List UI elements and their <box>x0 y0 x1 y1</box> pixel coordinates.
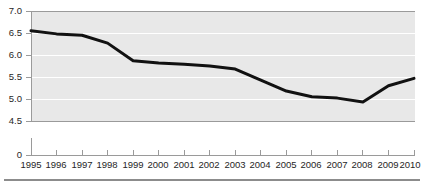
y-axis-label-5: 4.5 <box>9 115 22 126</box>
x-axis-label-3: 1998 <box>96 159 117 170</box>
x-axis-label-14: 2009 <box>377 159 398 170</box>
chart-canvas: 7.0 6.5 6.0 5.5 5.0 4.5 0 <box>0 0 424 192</box>
x-axis-label-12: 2007 <box>326 159 347 170</box>
x-tick-marks <box>31 150 414 155</box>
x-axis-label-11: 2006 <box>300 159 321 170</box>
x-axis-label-13: 2008 <box>351 159 372 170</box>
x-axis-label-9: 2004 <box>249 159 270 170</box>
y-axis-label-2: 6.0 <box>9 49 22 60</box>
footer-caption <box>5 184 305 192</box>
x-axis-label-4: 1999 <box>122 159 143 170</box>
footer-divider <box>4 179 420 181</box>
y-axis-label-3: 5.5 <box>9 71 22 82</box>
x-axis-label-8: 2003 <box>224 159 245 170</box>
y-axis-label-0: 7.0 <box>9 5 22 16</box>
x-axis-label-5: 2000 <box>147 159 168 170</box>
x-axis-label-2: 1997 <box>71 159 92 170</box>
x-axis-label-0: 1995 <box>20 159 41 170</box>
y-axis-labels: 7.0 6.5 6.0 5.5 5.0 4.5 0 <box>9 5 22 160</box>
x-axis-label-15: 2010 <box>399 159 420 170</box>
x-axis-label-1: 1996 <box>45 159 66 170</box>
line-chart-figure: 7.0 6.5 6.0 5.5 5.0 4.5 0 <box>0 0 424 192</box>
x-axis-labels: 1995 1996 1997 1998 1999 2000 2001 2002 … <box>20 159 420 170</box>
x-axis-label-7: 2002 <box>198 159 219 170</box>
y-axis-label-1: 6.5 <box>9 27 22 38</box>
x-axis-label-6: 2001 <box>173 159 194 170</box>
y-tick-marks <box>26 11 31 155</box>
y-axis-label-4: 5.0 <box>9 93 22 104</box>
plot-area-background <box>31 11 415 121</box>
x-axis-label-10: 2005 <box>275 159 296 170</box>
